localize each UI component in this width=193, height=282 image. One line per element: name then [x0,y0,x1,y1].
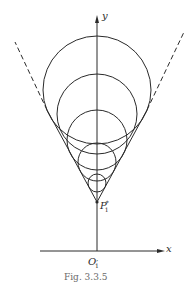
tangent-line-left-dashed [15,42,47,110]
apex-label-sup: * [106,199,109,206]
figure-caption: Fig. 3.3.5 [64,273,108,282]
tangent-lines-group [15,32,184,202]
y-axis-arrow-icon [95,15,99,23]
x-axis-label: x [166,244,172,254]
origin-label-sub: 1 [95,262,99,269]
x-axis-arrow-icon [157,249,165,253]
tangent-line-right-dashed [147,32,184,110]
apex-point [95,200,98,203]
origin-label: O′1 [88,257,99,269]
apex-label: P*1 [100,200,109,213]
y-axis-label: y [102,11,108,21]
apex-label-sub: 1 [105,206,109,213]
